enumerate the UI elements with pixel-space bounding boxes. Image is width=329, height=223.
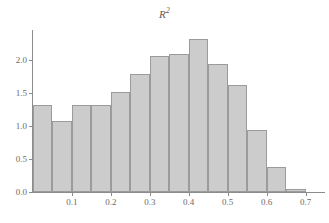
x-axis-line xyxy=(33,192,325,193)
y-tick-label: 2.0 xyxy=(16,56,27,65)
histogram-bar xyxy=(130,74,149,192)
histogram-bar xyxy=(33,105,52,192)
histogram-bar xyxy=(247,130,266,192)
chart-title: R2 xyxy=(0,6,329,20)
x-tick-label: 0.6 xyxy=(255,198,279,207)
x-tick-mark xyxy=(189,192,190,196)
chart-title-base: R xyxy=(159,8,166,20)
y-tick-label: 0.0 xyxy=(16,188,27,197)
histogram-bar xyxy=(208,64,227,192)
histogram-bar xyxy=(52,121,71,192)
histogram-bar xyxy=(228,85,247,192)
histogram-bar xyxy=(169,54,188,192)
y-tick-mark xyxy=(29,192,33,193)
x-tick-mark xyxy=(111,192,112,196)
histogram-bar xyxy=(91,105,110,192)
histogram-bar xyxy=(267,167,286,192)
x-tick-label: 0.7 xyxy=(294,198,318,207)
chart-title-exponent: 2 xyxy=(166,6,170,15)
histogram-figure: R2 0.00.51.01.52.0 0.10.20.30.40.50.60.7 xyxy=(0,0,329,223)
x-tick-mark xyxy=(306,192,307,196)
plot-area xyxy=(33,30,325,192)
x-tick-mark xyxy=(228,192,229,196)
x-tick-mark xyxy=(267,192,268,196)
histogram-bar xyxy=(286,189,305,192)
histogram-bar xyxy=(72,105,91,192)
x-tick-label: 0.3 xyxy=(138,198,162,207)
histogram-bar xyxy=(150,56,169,192)
x-tick-mark xyxy=(72,192,73,196)
y-tick-label: 1.0 xyxy=(16,122,27,131)
histogram-bar xyxy=(111,92,130,192)
x-tick-label: 0.5 xyxy=(216,198,240,207)
x-tick-label: 0.4 xyxy=(177,198,201,207)
x-tick-label: 0.2 xyxy=(99,198,123,207)
histogram-bar xyxy=(189,39,208,192)
x-tick-label: 0.1 xyxy=(60,198,84,207)
x-tick-mark xyxy=(150,192,151,196)
y-tick-label: 0.5 xyxy=(16,155,27,164)
y-tick-label: 1.5 xyxy=(16,89,27,98)
